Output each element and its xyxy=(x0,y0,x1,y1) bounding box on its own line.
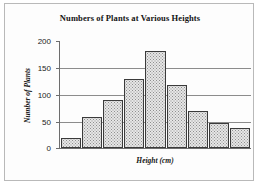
bar xyxy=(209,123,229,148)
chart-title: Numbers of Plants at Various Heights xyxy=(5,13,255,23)
y-tick-label-0: 0 xyxy=(47,144,51,153)
y-tick-label-100: 100 xyxy=(38,91,51,100)
bar xyxy=(124,79,144,148)
y-tick-label-150: 150 xyxy=(38,64,51,73)
bar xyxy=(103,100,123,148)
chart-frame: Numbers of Plants at Various Heights Num… xyxy=(4,3,254,181)
plot-area: 200 150 100 50 0 xyxy=(59,38,251,149)
bar xyxy=(167,85,187,148)
y-axis-title-text: Number of Plants xyxy=(23,67,32,122)
bar-series xyxy=(60,38,251,148)
y-tick-0: 0 xyxy=(56,148,60,149)
bar xyxy=(61,138,81,148)
y-tick-label-50: 50 xyxy=(42,118,51,127)
y-axis-title: Number of Plants xyxy=(21,56,33,134)
x-axis-title: Height (cm) xyxy=(59,156,251,165)
y-tick-label-200: 200 xyxy=(38,37,51,46)
bar xyxy=(145,51,165,148)
bar xyxy=(188,111,208,148)
x-axis-line xyxy=(59,148,251,149)
bar xyxy=(82,117,102,148)
bar xyxy=(230,128,250,148)
